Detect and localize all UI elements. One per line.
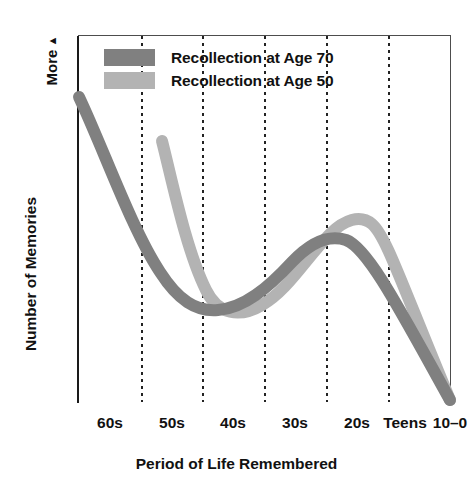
legend-label-age-50: Recollection at Age 50 (171, 72, 334, 90)
chart-screenshot: Recollection at Age 70 Recollection at A… (0, 0, 473, 502)
y-axis-direction-text: More (43, 50, 60, 86)
x-axis-title: Period of Life Remembered (0, 455, 473, 473)
legend-label-age-70: Recollection at Age 70 (171, 49, 334, 67)
x-tick-60s: 60s (97, 414, 123, 432)
series-line-age-50 (162, 141, 450, 400)
up-arrow-icon: ▲ (46, 36, 58, 47)
x-axis-tick-labels: 60s 50s 40s 30s 20s Teens 10–0 (0, 414, 473, 438)
y-axis-title: Number of Memories (22, 159, 40, 389)
legend-item-age-50: Recollection at Age 50 (104, 69, 404, 92)
legend-item-age-70: Recollection at Age 70 (104, 46, 404, 69)
chart-legend: Recollection at Age 70 Recollection at A… (104, 46, 404, 92)
legend-swatch-age-50 (104, 72, 155, 89)
x-tick-20s: 20s (344, 414, 370, 432)
y-axis-line (77, 36, 79, 403)
x-tick-teens: Teens (383, 414, 427, 432)
legend-swatch-age-70 (104, 49, 155, 66)
x-tick-10-0: 10–0 (433, 414, 467, 432)
plot-right-border (450, 36, 451, 403)
x-tick-30s: 30s (282, 414, 308, 432)
y-axis-direction-label: More▲ (43, 6, 60, 116)
x-tick-40s: 40s (220, 414, 246, 432)
x-tick-50s: 50s (159, 414, 185, 432)
